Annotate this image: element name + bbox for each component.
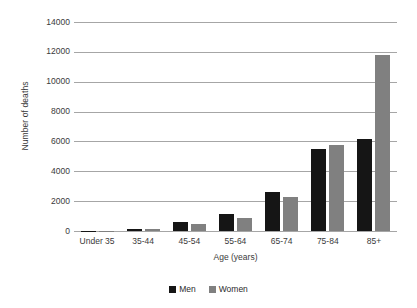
x-axis-tick-label: 55-64	[212, 236, 258, 246]
x-axis-tick-label: 85+	[351, 236, 397, 246]
y-axis-tick-label: 10000	[24, 77, 70, 86]
bar-group	[259, 22, 305, 231]
legend-swatch-icon	[169, 286, 176, 293]
bar-women-65-74[interactable]	[283, 197, 298, 231]
gridline	[74, 231, 397, 232]
bar-men-55-64[interactable]	[219, 214, 234, 231]
y-axis-tick-label: 2000	[24, 197, 70, 206]
x-axis-title: Age (years)	[74, 252, 397, 262]
y-axis-tick-label: 8000	[24, 107, 70, 116]
y-axis-tick-label: 0	[24, 227, 70, 236]
bar-women-55-64[interactable]	[237, 218, 252, 231]
y-axis-tick-label: 12000	[24, 47, 70, 56]
bar-men-65-74[interactable]	[265, 192, 280, 231]
x-axis-tick-label: Under 35	[74, 236, 120, 246]
y-axis-tick-labels: 02000400060008000100001200014000	[16, 22, 70, 231]
y-axis-tick-label: 14000	[24, 18, 70, 27]
y-axis-tick-label: 6000	[24, 137, 70, 146]
bar-women-45-54[interactable]	[191, 224, 206, 231]
x-axis-tick-label: 75-84	[305, 236, 351, 246]
legend-label: Women	[219, 284, 248, 294]
x-axis-tick-label: 65-74	[259, 236, 305, 246]
bar-group	[351, 22, 397, 231]
bar-group	[74, 22, 120, 231]
bar-group	[166, 22, 212, 231]
bar-men-45-54[interactable]	[173, 222, 188, 231]
y-axis-tick-label: 4000	[24, 167, 70, 176]
bar-group	[212, 22, 258, 231]
bar-group	[305, 22, 351, 231]
bar-women-75-84[interactable]	[329, 145, 344, 231]
legend-swatch-icon	[209, 286, 216, 293]
legend-item-men[interactable]: Men	[169, 284, 196, 294]
legend-item-women[interactable]: Women	[209, 284, 248, 294]
x-axis-tick-label: 45-54	[166, 236, 212, 246]
bar-men-75-84[interactable]	[311, 149, 326, 231]
bar-chart: Number of deaths 02000400060008000100001…	[0, 0, 417, 308]
bar-women-85[interactable]	[375, 55, 390, 231]
x-axis-tick-labels: Under 3535-4445-5455-6465-7475-8485+	[74, 236, 397, 246]
bar-group	[120, 22, 166, 231]
chart-legend: MenWomen	[0, 284, 417, 294]
plot-area	[74, 22, 397, 231]
bar-men-35-44[interactable]	[127, 229, 142, 231]
bar-women-35-44[interactable]	[145, 229, 160, 231]
bar-groups	[74, 22, 397, 231]
bar-men-85[interactable]	[357, 139, 372, 231]
x-axis-tick-label: 35-44	[120, 236, 166, 246]
legend-label: Men	[179, 284, 196, 294]
